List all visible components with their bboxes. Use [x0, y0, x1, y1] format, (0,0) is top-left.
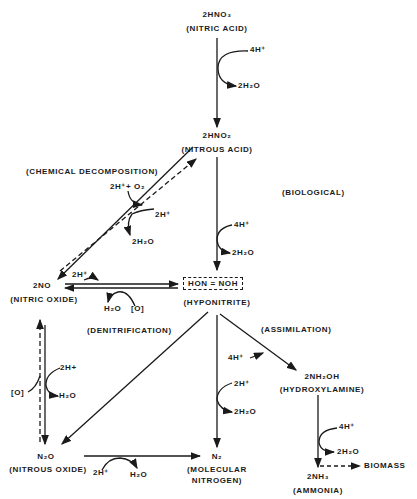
reagent-n2o-n2-out: H₂O	[130, 470, 147, 480]
reagent-n2o-o: [O]	[11, 388, 24, 398]
ammonia-formula: 2NH₃	[307, 472, 329, 482]
ammonia-label: (AMMONIA)	[293, 486, 343, 496]
hyponitrite-box: HON = NOH	[183, 277, 243, 290]
biological-label: (BIOLOGICAL)	[282, 188, 345, 198]
nitrous-acid-formula: 2HNO₂	[203, 131, 232, 141]
reagent-no-in: 2H⁺	[72, 270, 88, 280]
reagent-assim-in: 4H⁺	[228, 353, 244, 363]
reagent-hno3-out: 2H₂O	[238, 81, 260, 91]
nitric-oxide-formula: 2NO	[33, 281, 51, 291]
reagent-n2o-out: H₂O	[59, 391, 76, 401]
reagent-hypo-n2-out: 2H₂O	[234, 407, 256, 417]
molecular-nitrogen-label-2: NITROGEN)	[192, 476, 242, 486]
denitrification-label: (DENITRIFICATION)	[87, 326, 172, 336]
reagent-no-out: H₂O	[104, 304, 121, 314]
hydroxylamine-formula: 2NH₂OH	[304, 372, 339, 382]
hydroxylamine-label: (HYDROXYLAMINE)	[280, 385, 365, 395]
molecular-nitrogen-formula: N₂	[212, 452, 223, 462]
reagent-hypo-n2-in: 2H⁺	[234, 379, 250, 389]
reagent-chem-in: 2H⁺+ O₂	[110, 182, 145, 192]
reagent-n2o-n2-in: 2H⁺	[93, 468, 109, 478]
reagent-hno2-in: 4H⁺	[234, 220, 250, 230]
reagent-nh2oh-in: 4H⁺	[339, 422, 355, 432]
nitric-acid-formula: 2HNO₃	[203, 10, 232, 20]
nitrous-oxide-formula: N₂O	[37, 452, 54, 462]
reagent-chem-in2: 2H⁺	[155, 210, 171, 220]
nitric-acid-label: (NITRIC ACID)	[186, 24, 247, 34]
nitrous-oxide-label: (NITROUS OXIDE)	[9, 465, 86, 475]
hyponitrite-label: (HYPONITRITE)	[184, 298, 251, 308]
biomass-label: BIOMASS	[364, 461, 406, 471]
assimilation-label: (ASSIMILATION)	[261, 325, 331, 335]
reagent-no-o: [O]	[131, 304, 144, 314]
reagent-nh2oh-out: 2H₂O	[337, 447, 359, 457]
molecular-nitrogen-label: (MOLECULAR	[187, 465, 247, 475]
chemical-decomposition-label: (CHEMICAL DECOMPOSITION)	[26, 167, 158, 177]
reagent-hno2-out: 2H₂O	[232, 248, 254, 258]
nitrous-acid-label: (NITROUS ACID)	[181, 145, 252, 155]
hyponitrite-formula: HON = NOH	[188, 279, 238, 288]
reagent-n2o-in: 2H+	[60, 363, 77, 373]
reagent-chem-out: 2H₂O	[132, 237, 154, 247]
reagent-hno3-in: 4H⁺	[250, 45, 266, 55]
nitric-oxide-label: (NITRIC OXIDE)	[10, 295, 78, 305]
